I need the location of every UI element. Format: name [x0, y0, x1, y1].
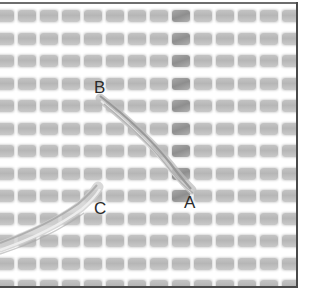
yarn-strand-edge-to-c [0, 185, 100, 254]
plastic-canvas-figure: B C A [0, 0, 309, 301]
yarn-strands [0, 0, 309, 301]
point-label-a: A [184, 194, 195, 211]
point-label-b: B [94, 79, 105, 96]
yarn-strand-b-to-a [100, 96, 193, 193]
point-label-c: C [94, 200, 106, 217]
